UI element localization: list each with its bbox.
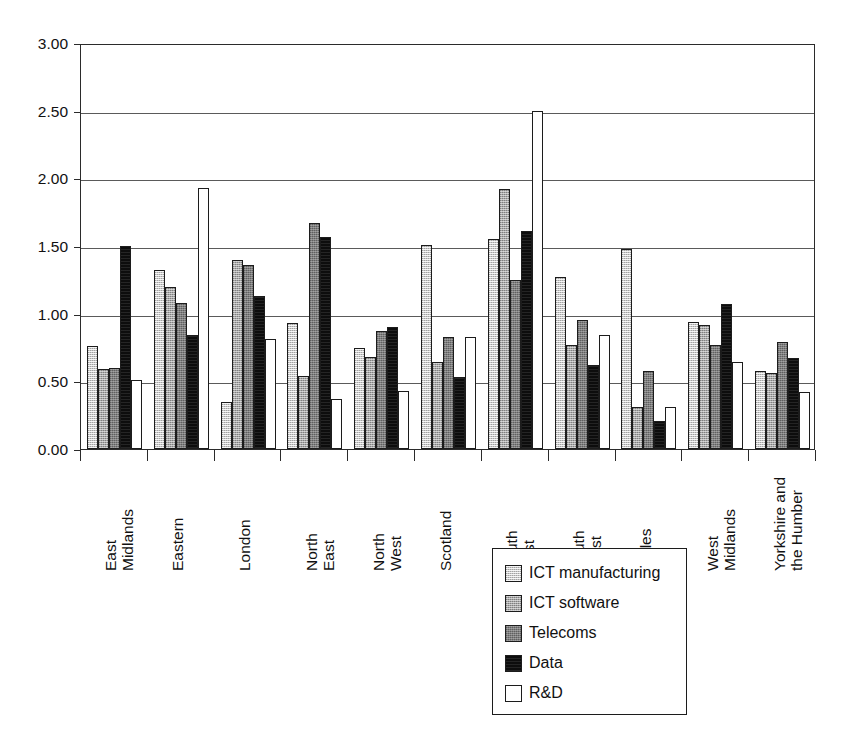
bar <box>87 346 98 449</box>
bar-group <box>421 45 476 449</box>
bar <box>265 339 276 449</box>
bar <box>499 189 510 449</box>
bar <box>577 320 588 449</box>
x-axis-tick-mark <box>748 450 749 461</box>
bar-group <box>488 45 543 449</box>
y-axis-tick-label: 2.00 <box>4 171 68 187</box>
x-label-line-1: West <box>704 536 721 571</box>
bar <box>387 327 398 449</box>
x-label-line-1: Eastern <box>169 518 186 571</box>
x-axis-tick-mark <box>147 450 148 461</box>
x-axis-tick-mark <box>80 450 81 461</box>
x-axis-tick-mark <box>481 450 482 461</box>
bar <box>721 304 732 449</box>
x-axis-category-label: WestMidlands <box>704 509 738 571</box>
bar <box>443 337 454 449</box>
x-label-line-1: Yorkshire and <box>771 477 788 571</box>
bar <box>555 277 566 449</box>
x-axis-category-label: NorthWest <box>370 533 404 571</box>
x-axis-tick-mark <box>548 450 549 461</box>
x-axis-category-label: Scotland <box>437 511 454 571</box>
bar-group <box>354 45 409 449</box>
y-axis-tick-label: 3.00 <box>4 36 68 52</box>
legend-item[interactable]: ICT software <box>505 588 686 618</box>
legend-item[interactable]: Telecoms <box>505 618 686 648</box>
x-axis-category-label: Eastern <box>169 518 186 571</box>
x-label-line-1: North <box>370 533 387 571</box>
bar-group <box>221 45 276 449</box>
bar-group <box>621 45 676 449</box>
bar <box>287 323 298 449</box>
bar <box>710 345 721 449</box>
x-axis-tick-mark <box>347 450 348 461</box>
x-axis-tick-mark <box>615 450 616 461</box>
bar <box>632 407 643 449</box>
chart-title <box>0 0 843 4</box>
bar <box>309 223 320 449</box>
bar <box>654 421 665 449</box>
bar <box>532 111 543 449</box>
x-axis-category-label: Yorkshire andthe Humber <box>771 477 805 571</box>
bar-group <box>755 45 810 449</box>
bar <box>354 348 365 450</box>
bar <box>766 373 777 449</box>
bar <box>221 402 232 449</box>
legend-swatch-icon <box>505 685 522 702</box>
legend-swatch-icon <box>505 625 522 642</box>
bar <box>599 335 610 449</box>
x-label-line-2: Midlands <box>119 509 136 571</box>
x-label-line-2: West <box>387 533 404 571</box>
x-label-line-1: North <box>303 533 320 571</box>
y-axis-tick-label: 1.50 <box>4 239 68 255</box>
legend-label: ICT software <box>529 595 619 611</box>
bar <box>588 365 599 449</box>
bar <box>398 391 409 449</box>
bar <box>643 371 654 449</box>
x-axis-category-label: NorthEast <box>303 533 337 571</box>
bar <box>510 280 521 449</box>
y-axis-tick-label: 0.50 <box>4 374 68 390</box>
legend-label: R&D <box>529 685 563 701</box>
bar <box>254 296 265 449</box>
x-axis-tick-mark <box>280 450 281 461</box>
bar-group <box>287 45 342 449</box>
bar <box>566 345 577 449</box>
bar <box>331 399 342 449</box>
bar <box>432 362 443 449</box>
bar-group <box>688 45 743 449</box>
bar <box>454 377 465 449</box>
bar <box>165 287 176 449</box>
bar <box>187 335 198 449</box>
bar <box>154 270 165 449</box>
legend-swatch-icon <box>505 595 522 612</box>
bar <box>777 342 788 449</box>
legend-item[interactable]: Data <box>505 648 686 678</box>
bar <box>298 376 309 449</box>
x-label-line-2: Midlands <box>721 509 738 571</box>
bar <box>699 325 710 450</box>
legend-item[interactable]: ICT manufacturing <box>505 558 686 588</box>
bar <box>732 362 743 449</box>
plot-area <box>80 44 815 450</box>
legend-swatch-icon <box>505 565 522 582</box>
bar <box>98 369 109 449</box>
bar <box>198 188 209 449</box>
x-label-line-1: East <box>102 540 119 571</box>
x-axis-category-label: EastMidlands <box>102 509 136 571</box>
legend-swatch-icon <box>505 655 522 672</box>
x-label-line-2: East <box>320 533 337 571</box>
bar <box>799 392 810 449</box>
x-label-line-2: the Humber <box>788 477 805 571</box>
legend-item[interactable]: R&D <box>505 678 686 708</box>
bar <box>109 368 120 449</box>
bar <box>665 407 676 449</box>
bar-group <box>87 45 142 449</box>
x-label-line-1: Scotland <box>437 511 454 571</box>
bar <box>176 303 187 449</box>
x-axis-tick-mark <box>214 450 215 461</box>
x-label-line-1: London <box>236 519 253 571</box>
bar <box>243 265 254 449</box>
legend-label: Telecoms <box>529 625 597 641</box>
legend-label: ICT manufacturing <box>529 565 660 581</box>
bar <box>788 358 799 449</box>
